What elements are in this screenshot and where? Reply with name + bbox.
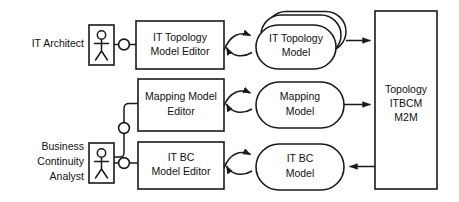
actor-label-line-2: Continuity bbox=[37, 155, 84, 167]
node-label-line-1: Mapping Model bbox=[145, 90, 217, 102]
node-label-line-2: Model bbox=[286, 105, 315, 117]
node-topology-itbcm-m2m: Topology ITBCM M2M bbox=[375, 11, 437, 189]
node-it-topology-model: IT Topology Model bbox=[256, 12, 346, 70]
actor-label-business-continuity-analyst: Business Continuity Analyst bbox=[37, 140, 84, 182]
edge-arc-editor-to-model bbox=[224, 91, 251, 106]
node-label-line-2: Editor bbox=[167, 105, 195, 117]
connector-elbow-upper bbox=[124, 104, 138, 123]
diagram-svg: IT Architect IT Topology Model Editor bbox=[0, 0, 459, 202]
connector-it-architect-to-topology-editor bbox=[114, 39, 136, 50]
edge-mapping-editor-model-bidirectional bbox=[224, 91, 252, 112]
node-label-line-2: Model Editor bbox=[152, 165, 211, 177]
node-it-bc-model: IT BC Model bbox=[256, 144, 344, 190]
edge-arc-editor-to-model bbox=[224, 34, 251, 51]
edge-arc-model-to-editor bbox=[227, 48, 253, 56]
node-mapping-model: Mapping Model bbox=[256, 82, 344, 128]
interface-ball-icon bbox=[119, 158, 130, 169]
node-label-line-2: ITBCM bbox=[390, 97, 423, 109]
node-label-line-1: IT Topology bbox=[153, 31, 208, 43]
node-label-line-1: Topology bbox=[385, 83, 428, 95]
actor-label-it-architect: IT Architect bbox=[32, 37, 84, 49]
node-label-line-2: Model bbox=[282, 46, 311, 58]
node-label-line-2: Model bbox=[286, 167, 315, 179]
node-label-line-2: Model Editor bbox=[151, 45, 210, 57]
node-label-line-1: IT BC bbox=[168, 151, 195, 163]
node-it-topology-model-editor: IT Topology Model Editor bbox=[136, 21, 224, 69]
diagram-canvas: IT Architect IT Topology Model Editor bbox=[0, 0, 459, 202]
actor-label-line-3: Analyst bbox=[50, 170, 85, 182]
actor-it-architect bbox=[89, 25, 114, 65]
edge-topology-editor-model-bidirectional bbox=[224, 34, 252, 56]
node-label-line-1: IT Topology bbox=[269, 32, 324, 44]
edge-arc-model-to-editor bbox=[227, 104, 253, 112]
stick-head-icon bbox=[97, 31, 105, 39]
interface-ball-icon bbox=[119, 123, 130, 134]
node-it-bc-model-editor: IT BC Model Editor bbox=[138, 142, 224, 189]
connector-bc-analyst-to-mapping-editor bbox=[114, 104, 138, 158]
interface-ball-icon bbox=[119, 39, 130, 50]
node-mapping-model-editor: Mapping Model Editor bbox=[138, 79, 224, 131]
stick-head-icon bbox=[97, 149, 105, 157]
node-label-line-1: IT BC bbox=[287, 152, 314, 164]
node-label-line-1: Mapping bbox=[280, 90, 320, 102]
connector-elbow-lower bbox=[114, 134, 124, 157]
actor-business-continuity-analyst bbox=[89, 143, 114, 183]
actor-label-line-1: Business bbox=[41, 140, 84, 152]
edge-it-bc-editor-model-bidirectional bbox=[224, 152, 252, 174]
connector-bc-analyst-to-it-bc-editor bbox=[114, 158, 138, 169]
node-label-line-3: M2M bbox=[394, 111, 417, 123]
edge-arc-editor-to-model bbox=[224, 152, 251, 168]
edge-arc-model-to-editor bbox=[227, 166, 253, 174]
